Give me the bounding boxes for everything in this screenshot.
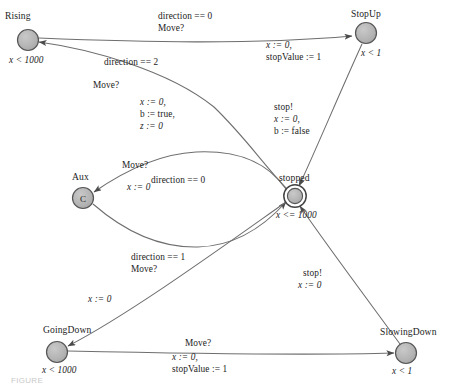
node-aux-inner-label: C <box>80 194 86 204</box>
edge-label-goingdown-to-slowingdown-assign-1: x := 0, <box>172 352 198 363</box>
edge-label-stopup-to-stopped-assign-2: b := false <box>274 126 310 137</box>
edge-aux-to-stopped[interactable] <box>93 202 286 247</box>
node-label-stopped: stopped <box>279 172 310 183</box>
node-stopup[interactable] <box>356 23 377 44</box>
node-invariant-rising: x < 1000 <box>9 55 43 66</box>
edge-stopup-to-stopped[interactable] <box>299 44 362 186</box>
node-invariant-slowingdown: x < 1 <box>392 366 412 377</box>
edge-label-rising-to-stopup-guard: direction == 0 <box>158 11 212 22</box>
edge-label-goingdown-to-slowingdown-assign-2: stopValue := 1 <box>172 364 227 375</box>
edge-label-stopped-to-rising-sync: Move? <box>93 80 119 91</box>
node-invariant-stopup: x < 1 <box>361 48 381 59</box>
node-goingdown[interactable] <box>47 342 68 363</box>
edge-label-slowingdown-to-stopped-sync: stop! <box>303 268 322 279</box>
edge-label-stopped-to-rising-assign-2: b := true, <box>140 109 175 120</box>
node-label-goingdown: GoingDown <box>43 324 91 335</box>
node-slowingdown[interactable] <box>396 343 417 364</box>
node-label-slowingdown: SlowingDown <box>380 326 437 337</box>
edge-label-stopped-to-rising-guard: direction == 2 <box>104 57 158 68</box>
node-label-rising: Rising <box>5 10 31 21</box>
edge-label-stopup-assign-1: x := 0, <box>266 40 292 51</box>
diagram-canvas: C Rising x < 1000 StopUp x < 1 Aux stopp… <box>0 0 469 385</box>
edge-label-stopped-to-rising-assign-3: z := 0 <box>140 121 163 132</box>
node-rising[interactable] <box>18 30 39 51</box>
edge-rising-to-stopup[interactable] <box>39 36 352 42</box>
edge-label-stopped-to-rising-assign-1: x := 0, <box>140 97 166 108</box>
edge-goingdown-to-slowingdown[interactable] <box>68 351 394 354</box>
nodes-layer: C <box>18 23 417 364</box>
edge-label-stopped-to-aux-guard: direction == 0 <box>151 175 205 186</box>
edge-label-stopup-to-stopped-sync: stop! <box>274 102 293 113</box>
node-invariant-goingdown: x < 1000 <box>42 365 76 376</box>
edge-label-stopped-to-goingdown-guard: direction == 1 <box>131 252 185 263</box>
node-label-aux: Aux <box>72 171 89 182</box>
node-label-stopup: StopUp <box>351 8 381 19</box>
edge-label-stopup-to-stopped-assign-1: x := 0, <box>274 114 300 125</box>
edge-label-stopped-to-goingdown-assign: x := 0 <box>88 294 111 305</box>
edge-stopped-to-goingdown[interactable] <box>68 202 286 346</box>
edge-label-stopup-assign-2: stopValue := 1 <box>266 52 321 63</box>
node-invariant-stopped: x <= 1000 <box>276 210 317 221</box>
node-stopped-inner <box>287 188 302 203</box>
edge-label-slowingdown-to-stopped-assign: x := 0 <box>298 280 321 291</box>
edge-label-stopped-to-aux-sync: Move? <box>122 160 148 171</box>
figure-caption: FIGURE <box>11 376 43 385</box>
edge-label-stopped-to-goingdown-sync: Move? <box>131 264 157 275</box>
edge-label-rising-to-stopup-sync: Move? <box>158 23 184 34</box>
edge-label-goingdown-to-slowingdown-sync: Move? <box>185 338 211 349</box>
edge-label-stopped-to-aux-assign: x := 0 <box>127 182 150 193</box>
